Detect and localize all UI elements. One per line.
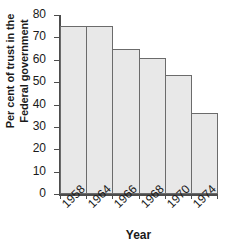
x-axis-title: Year xyxy=(60,228,217,242)
y-axis-title-line-1: Per cent of trust in the xyxy=(3,14,17,128)
y-axis-title-line-2: Federal government xyxy=(17,19,31,122)
bar-cell xyxy=(191,15,217,194)
y-axis-tick-label: 40 xyxy=(33,97,46,112)
plot-area: 80706050403020100 1958196419661968197019… xyxy=(60,15,217,194)
bar-chart-figure: Per cent of trust in the Federal governm… xyxy=(0,0,232,248)
y-axis-tick-label: 70 xyxy=(33,29,46,44)
y-axis-tick-label: 50 xyxy=(33,74,46,89)
bar-cell xyxy=(60,15,86,194)
bar-1958 xyxy=(60,26,87,194)
y-axis-tick-label: 10 xyxy=(33,164,46,179)
y-axis-tick-label: 60 xyxy=(33,52,46,67)
bar-1968 xyxy=(139,58,166,194)
bar-cell xyxy=(165,15,191,194)
bar-1970 xyxy=(165,75,192,194)
bar-cell xyxy=(112,15,138,194)
y-axis-tick-label: 80 xyxy=(33,7,46,22)
bar-series xyxy=(60,15,217,194)
x-axis-tick xyxy=(217,194,218,199)
bar-cell xyxy=(86,15,112,194)
y-axis-tick-label: 30 xyxy=(33,119,46,134)
bar-cell xyxy=(139,15,165,194)
bar-1964 xyxy=(86,26,113,194)
y-axis-tick-label: 20 xyxy=(33,141,46,156)
bar-1974 xyxy=(191,113,218,194)
y-axis-tick-label: 0 xyxy=(39,186,46,201)
bar-1966 xyxy=(112,49,139,194)
y-axis-title: Per cent of trust in the Federal governm… xyxy=(1,0,33,166)
